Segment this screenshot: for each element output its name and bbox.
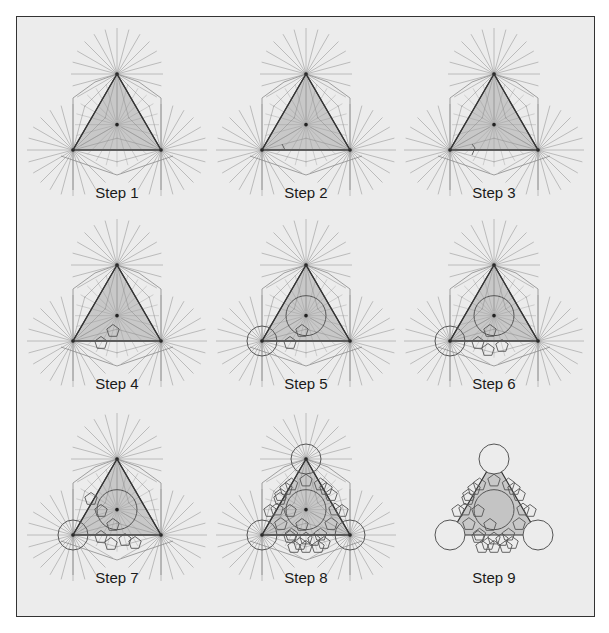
panel-step-6 <box>404 219 584 387</box>
step-label: Step 4 <box>57 375 177 393</box>
corner-circle-br <box>523 520 553 550</box>
corner-circle-bl <box>435 520 465 550</box>
step-label: Step 6 <box>434 375 554 393</box>
corner-circle-top <box>479 444 509 474</box>
panel-step-1 <box>27 28 207 196</box>
step-label: Step 1 <box>57 184 177 202</box>
step-label: Step 3 <box>434 184 554 202</box>
panel-step-4 <box>27 219 207 387</box>
panel-step-5 <box>216 219 396 387</box>
panel-step-7 <box>27 413 207 581</box>
center-circle <box>474 490 514 530</box>
step-label: Step 8 <box>246 569 366 587</box>
step-label: Step 9 <box>434 569 554 587</box>
step-label: Step 2 <box>246 184 366 202</box>
panel-step-8 <box>216 413 396 581</box>
panel-step-9 <box>435 444 553 552</box>
step-label: Step 7 <box>57 569 177 587</box>
step-label: Step 5 <box>246 375 366 393</box>
construction-diagram <box>0 0 609 633</box>
panel-step-3 <box>404 28 584 196</box>
panel-step-2 <box>216 28 396 196</box>
